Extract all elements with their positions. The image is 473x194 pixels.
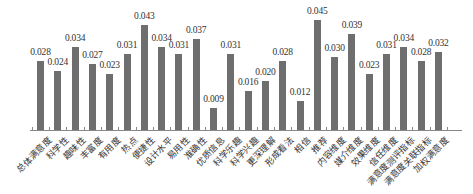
bar (89, 64, 96, 130)
value-label: 0.024 (48, 57, 68, 67)
x-axis-tick (118, 127, 119, 130)
bar (279, 61, 286, 130)
value-label: 0.032 (428, 38, 448, 48)
x-axis-tick (32, 127, 33, 130)
bar (175, 54, 182, 130)
value-label: 0.012 (290, 87, 310, 97)
bar (400, 47, 407, 130)
bar (54, 71, 61, 130)
x-axis-tick (291, 127, 292, 130)
x-axis-tick (343, 127, 344, 130)
bar (331, 57, 338, 131)
bar (348, 34, 355, 130)
value-label: 0.043 (134, 11, 154, 21)
value-label: 0.023 (99, 60, 119, 70)
x-axis-tick (239, 127, 240, 130)
x-axis-tick (101, 127, 102, 130)
value-label: 0.034 (394, 33, 414, 43)
x-axis (30, 130, 462, 131)
bar (106, 74, 113, 130)
x-axis-tick (205, 127, 206, 130)
x-axis-tick (447, 127, 448, 130)
bar (141, 25, 148, 130)
bar (383, 54, 390, 130)
value-label: 0.028 (30, 47, 50, 57)
x-axis-tick (430, 127, 431, 130)
value-label: 0.039 (342, 20, 362, 30)
value-label: 0.031 (221, 40, 241, 50)
x-axis-tick (274, 127, 275, 130)
bar (297, 101, 304, 130)
x-axis-tick (395, 127, 396, 130)
bar (227, 54, 234, 130)
value-label: 0.016 (238, 77, 258, 87)
x-axis-tick (170, 127, 171, 130)
bar (435, 52, 442, 130)
x-axis-tick (361, 127, 362, 130)
x-axis-tick (66, 127, 67, 130)
bar (193, 39, 200, 130)
bar (262, 81, 269, 130)
bar (158, 47, 165, 130)
x-axis-tick (136, 127, 137, 130)
x-axis-tick (326, 127, 327, 130)
x-axis-tick (153, 127, 154, 130)
bar (418, 61, 425, 130)
x-axis-tick (188, 127, 189, 130)
value-label: 0.034 (65, 33, 85, 43)
x-axis-tick (222, 127, 223, 130)
bar (124, 54, 131, 130)
bar (72, 47, 79, 130)
bar (37, 61, 44, 130)
value-label: 0.023 (359, 60, 379, 70)
x-axis-tick (378, 127, 379, 130)
x-axis-tick (309, 127, 310, 130)
bar (366, 74, 373, 130)
bar (314, 20, 321, 130)
value-label: 0.031 (169, 40, 189, 50)
value-label: 0.045 (307, 6, 327, 16)
value-label: 0.020 (255, 67, 275, 77)
bar (210, 108, 217, 130)
value-label: 0.030 (324, 43, 344, 53)
value-label: 0.031 (117, 40, 137, 50)
x-axis-tick (412, 127, 413, 130)
x-axis-tick (49, 127, 50, 130)
x-axis-tick (257, 127, 258, 130)
value-label: 0.009 (203, 94, 223, 104)
value-label: 0.027 (82, 50, 102, 60)
bar (245, 91, 252, 130)
value-label: 0.037 (186, 25, 206, 35)
x-axis-tick (84, 127, 85, 130)
value-label: 0.028 (411, 47, 431, 57)
bar-chart: 0.028总体满意度0.024科学性0.034趣味性0.027丰富度0.023有… (0, 0, 473, 194)
value-label: 0.028 (272, 47, 292, 57)
